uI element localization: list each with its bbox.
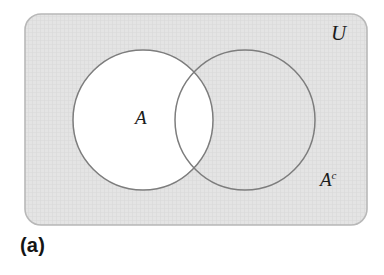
set-a-label: A — [135, 108, 147, 127]
universal-set-label: U — [331, 23, 346, 44]
venn-diagram-figure: U A Ac (a) — [0, 0, 384, 275]
complement-label: Ac — [320, 170, 337, 189]
venn-diagram-graphic — [0, 0, 384, 275]
complement-label-base: A — [320, 169, 332, 190]
complement-label-superscript: c — [332, 169, 337, 181]
figure-caption: (a) — [20, 234, 45, 257]
